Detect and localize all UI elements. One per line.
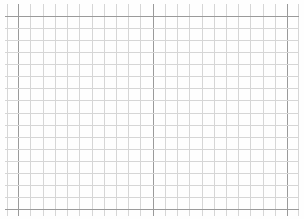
horizontal-grid-line — [5, 40, 299, 41]
horizontal-grid-line — [5, 113, 299, 114]
horizontal-grid-line — [5, 197, 299, 198]
horizontal-grid-line — [5, 100, 299, 101]
horizontal-grid-line — [5, 209, 299, 210]
horizontal-grid-line — [5, 16, 299, 17]
horizontal-grid-line — [5, 64, 299, 65]
horizontal-grid-line — [5, 28, 299, 29]
graph-paper — [0, 0, 304, 219]
horizontal-grid-line — [5, 149, 299, 150]
horizontal-grid-line — [5, 76, 299, 77]
horizontal-grid-line — [5, 185, 299, 186]
horizontal-grid-line — [5, 125, 299, 126]
horizontal-grid-line — [5, 161, 299, 162]
horizontal-grid-line — [5, 173, 299, 174]
horizontal-grid-line — [5, 52, 299, 53]
horizontal-grid-line — [5, 88, 299, 89]
horizontal-grid-line — [5, 137, 299, 138]
